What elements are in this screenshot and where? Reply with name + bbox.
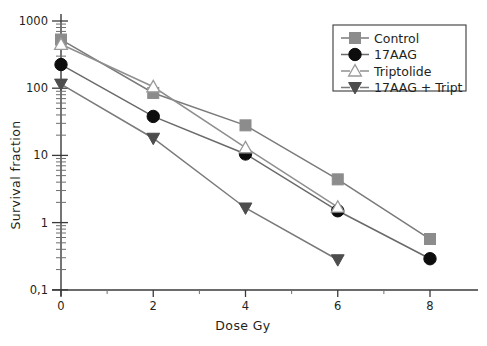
legend-label-2: Triptolide [373,64,432,79]
legend: Control17AAGTriptolide17AAG + Tript [333,25,466,95]
y-tick-label: 10 [33,148,48,162]
data-point-s1-1 [147,110,159,122]
legend-item-2[interactable]: Triptolide [341,64,432,79]
survival-curve-figure: 10001001010,1 02468 Dose Gy Survival fra… [0,0,487,346]
data-point-s1-0 [55,58,67,70]
x-axis-title: Dose Gy [215,318,271,333]
x-axis-ticks [61,290,430,297]
x-tick-label: 4 [242,299,249,313]
y-axis-title: Survival fraction [8,120,23,229]
data-point-s0-4 [425,234,436,245]
x-axis-tick-labels: 02468 [57,299,433,313]
data-point-s0-2 [240,120,251,131]
y-tick-label: 1 [41,216,48,230]
y-axis-tick-labels: 10001001010,1 [19,14,48,297]
legend-marker-0 [350,33,361,44]
data-point-s2-2 [239,141,252,152]
legend-item-1[interactable]: 17AAG [341,47,417,62]
legend-label-0: Control [374,31,419,46]
data-point-s1-4 [424,253,436,265]
x-tick-label: 0 [57,299,64,313]
plot-area: 10001001010,1 02468 Dose Gy Survival fra… [0,0,487,346]
x-tick-label: 6 [334,299,341,313]
y-tick-label: 1000 [19,14,48,28]
data-point-s2-1 [147,80,160,91]
x-tick-label: 2 [150,299,157,313]
legend-marker-1 [349,48,361,60]
legend-label-3: 17AAG + Tript [374,80,463,95]
series-line-2 [61,44,338,207]
data-point-s0-3 [332,174,343,185]
y-tick-label: 100 [26,81,48,95]
legend-label-1: 17AAG [374,47,417,62]
data-point-s3-3 [331,255,344,266]
data-point-s3-2 [239,203,252,214]
series-line-3 [61,84,338,260]
data-point-s3-1 [147,133,160,144]
legend-item-0[interactable]: Control [341,31,419,46]
x-tick-label: 8 [426,299,433,313]
y-tick-label: 0,1 [30,283,48,297]
